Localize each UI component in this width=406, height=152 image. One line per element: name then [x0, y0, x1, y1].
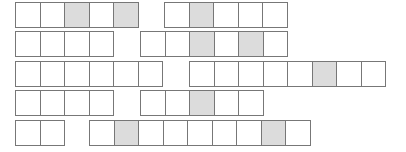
shaded-cell	[65, 2, 90, 28]
empty-cell	[16, 31, 41, 57]
empty-cell	[286, 120, 311, 146]
cell-strip-row1-2	[164, 2, 288, 28]
empty-cell	[16, 90, 41, 116]
empty-cell	[188, 120, 213, 146]
shaded-cell	[115, 120, 140, 146]
cell-strip-row3-1	[15, 61, 163, 87]
empty-cell	[141, 31, 166, 57]
empty-cell	[90, 2, 115, 28]
shaded-cell	[190, 90, 215, 116]
shaded-cell	[190, 31, 215, 57]
shaded-cell	[190, 2, 215, 28]
empty-cell	[237, 120, 262, 146]
empty-cell	[190, 61, 215, 87]
empty-cell	[166, 31, 191, 57]
cell-strip-row2-1	[15, 31, 114, 57]
cell-strip-row3-2	[189, 61, 386, 87]
empty-cell	[90, 61, 115, 87]
empty-cell	[141, 90, 166, 116]
empty-cell	[263, 2, 288, 28]
empty-cell	[90, 120, 115, 146]
empty-cell	[41, 2, 66, 28]
empty-cell	[288, 61, 313, 87]
empty-cell	[362, 61, 387, 87]
shaded-cell	[313, 61, 338, 87]
empty-cell	[41, 120, 66, 146]
empty-cell	[41, 31, 66, 57]
empty-cell	[214, 2, 239, 28]
empty-cell	[16, 2, 41, 28]
empty-cell	[65, 31, 90, 57]
empty-cell	[264, 31, 289, 57]
empty-cell	[16, 61, 41, 87]
cell-strip-row1-1	[15, 2, 139, 28]
empty-cell	[139, 120, 164, 146]
empty-cell	[114, 61, 139, 87]
empty-cell	[165, 2, 190, 28]
empty-cell	[239, 2, 264, 28]
empty-cell	[239, 61, 264, 87]
empty-cell	[90, 31, 115, 57]
shaded-cell	[239, 31, 264, 57]
cell-strip-row2-2	[140, 31, 288, 57]
empty-cell	[16, 120, 41, 146]
empty-cell	[215, 61, 240, 87]
empty-cell	[337, 61, 362, 87]
cell-strip-row4-1	[15, 90, 114, 116]
empty-cell	[65, 90, 90, 116]
empty-cell	[65, 61, 90, 87]
shaded-cell	[262, 120, 287, 146]
cell-strip-row5-1	[15, 120, 65, 146]
empty-cell	[41, 61, 66, 87]
empty-cell	[41, 90, 66, 116]
empty-cell	[239, 90, 264, 116]
empty-cell	[139, 61, 164, 87]
empty-cell	[166, 90, 191, 116]
cell-strip-row4-2	[140, 90, 264, 116]
empty-cell	[213, 120, 238, 146]
cell-strip-row5-2	[89, 120, 311, 146]
shaded-cell	[114, 2, 139, 28]
empty-cell	[215, 31, 240, 57]
empty-cell	[215, 90, 240, 116]
empty-cell	[264, 61, 289, 87]
empty-cell	[164, 120, 189, 146]
empty-cell	[90, 90, 115, 116]
